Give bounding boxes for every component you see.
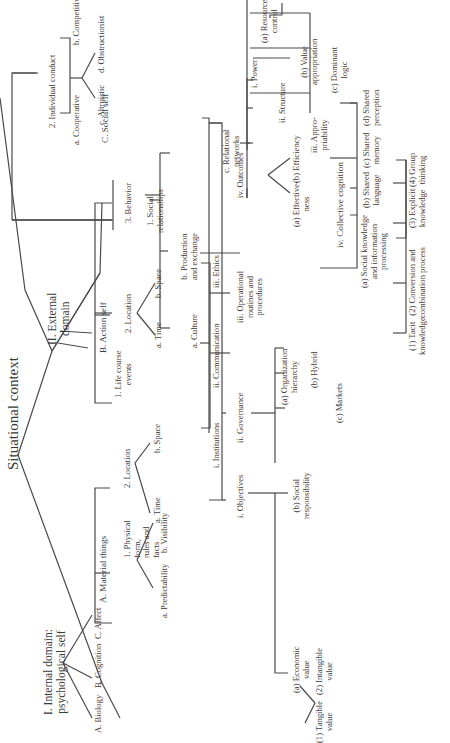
economic-tangible: (1) Tangible value <box>315 701 334 743</box>
diagram-title: Situational context <box>5 357 21 470</box>
internal-cognition: B. Cognition <box>94 644 104 688</box>
outcomes-effectiveness: (a) Effective- ness <box>292 181 311 227</box>
objectives-social: (b) Social responsibility <box>292 472 311 519</box>
relational-structure: ii. Structure <box>278 82 288 123</box>
relational-collective-cognition: iv. Collective cognition <box>335 162 345 248</box>
conduct-cooperative: a. Cooperative <box>72 95 82 145</box>
material-location: 2. Location <box>123 449 133 488</box>
objectives-economic: (a) Economic value <box>292 646 311 693</box>
production-governance: ii. Governance <box>236 392 246 443</box>
action-location-time: a. Time <box>154 322 164 348</box>
internal-domain-label: I. Internal domain: psychological self <box>42 629 68 715</box>
governance-hierarchy: (a) Organization hierarchy <box>280 349 299 405</box>
conduct-obstructionist: d. Obstructionist <box>97 16 107 73</box>
material-location-time: a. Time <box>153 497 163 523</box>
material-things-label: A. Material things <box>98 536 108 603</box>
culture-label: a. Culture <box>190 314 200 348</box>
collective-shared-language: (b) Shared language <box>362 172 381 208</box>
individual-conduct: 2. Individual conduct <box>48 55 58 128</box>
power-resource-control: (a) Resource control <box>260 0 279 43</box>
action-location: 2. Location <box>124 294 134 333</box>
outcomes-efficiency: (b) Efficiency <box>292 135 302 183</box>
relational-networks-label: c. Relational networks <box>222 130 241 173</box>
relational-appropriability: iii. Appro- priability <box>310 117 329 153</box>
material-location-space: b. Space <box>153 424 163 453</box>
internal-affect: C. Affect <box>94 608 104 639</box>
action-self-label: B. Action self <box>98 302 108 353</box>
power-value-appropriation: (b) Value appropriation <box>300 39 319 85</box>
knowledge-tacit: (1) Tacit knowledge <box>408 317 427 355</box>
production-operational: iii. Operational routines and procedures <box>236 271 265 323</box>
power-dominant-logic: (c) Dominant logic <box>330 47 349 93</box>
production-objectives: i. Objectives <box>236 475 246 518</box>
material-predictability: a. Predictability <box>160 564 170 618</box>
culture-institutions: i. Institutions <box>212 423 222 468</box>
culture-communication: ii. Communication <box>212 324 222 388</box>
action-location-space: b. Space <box>154 269 164 298</box>
external-domain-label: II. External domain <box>46 293 72 345</box>
collective-social-knowledge: (a) Social knowledge and information pro… <box>360 215 389 288</box>
internal-biology: A. Biology <box>94 695 104 733</box>
conduct-altruistic: c. Altruistic <box>97 85 107 125</box>
production-exchange-label: b. Production and exchange <box>180 233 199 280</box>
knowledge-group-thinking: (4) Group thinking <box>408 153 427 187</box>
action-behavior: 3. Behavior <box>124 183 134 223</box>
conduct-competitive: b. Competitive <box>72 0 82 45</box>
governance-hybrid: (b) Hybrid <box>310 351 320 388</box>
relational-power: i. Power <box>250 59 260 88</box>
action-life-course: 1. Life course events <box>114 351 133 398</box>
culture-ethics: iii. Ethics <box>212 255 222 288</box>
situational-context-diagram: Situational context I. Internal domain: … <box>0 0 450 743</box>
knowledge-conversion: (2) Conversion and combination process <box>408 247 427 318</box>
social-relationships: 1. Social relationships <box>146 189 165 233</box>
collective-shared-memory: (c) Shared memory <box>362 132 381 168</box>
economic-intangible: (2) Intangible value <box>315 648 334 695</box>
governance-markets: (c) Markets <box>335 383 345 423</box>
material-physical: 1. Physical form, rules and facts <box>123 520 161 558</box>
knowledge-explicit: (3) Explicit knowledge <box>408 189 427 228</box>
collective-shared-perception: (d) Shared perception <box>362 90 381 126</box>
